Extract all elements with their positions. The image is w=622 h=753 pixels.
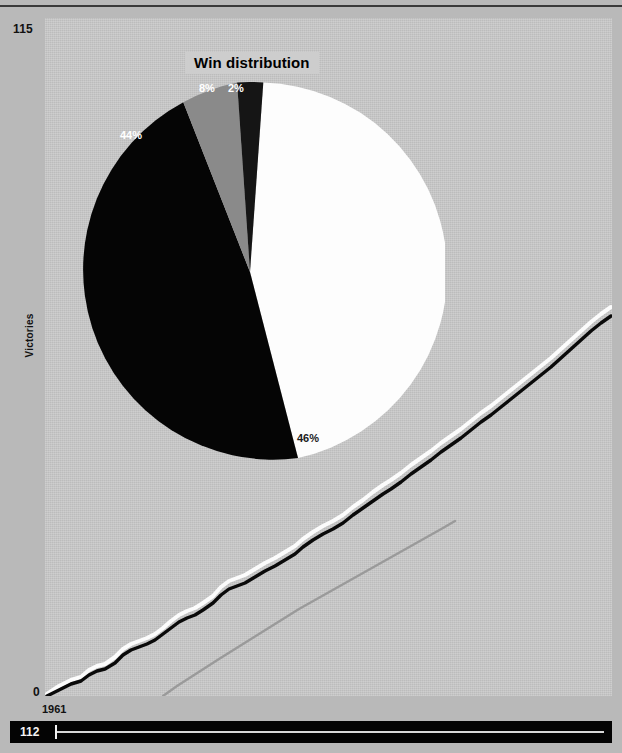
pie-chart xyxy=(60,72,445,472)
top-divider xyxy=(0,5,622,7)
pie-chart-svg xyxy=(60,72,445,472)
y-axis-max-label: 115 xyxy=(13,22,33,36)
pie-label-gray: 8% xyxy=(199,82,215,94)
x-axis-start-label: 1961 xyxy=(42,703,66,715)
status-bar: 112 xyxy=(10,721,612,743)
y-axis-min-label: 0 xyxy=(33,685,40,699)
pie-label-darkgray: 2% xyxy=(228,82,244,94)
pie-chart-title: Win distribution xyxy=(185,52,319,74)
chart-window: 115 0 Victories 1961 Win distribution 46… xyxy=(0,0,622,753)
timeline-slider-track[interactable] xyxy=(56,731,604,733)
pie-label-black: 44% xyxy=(120,129,142,141)
pie-label-white: 46% xyxy=(297,432,319,444)
y-axis-title: Victories xyxy=(24,301,35,371)
timeline-slider-handle[interactable] xyxy=(55,725,57,739)
frame-counter-value: 112 xyxy=(20,725,39,739)
